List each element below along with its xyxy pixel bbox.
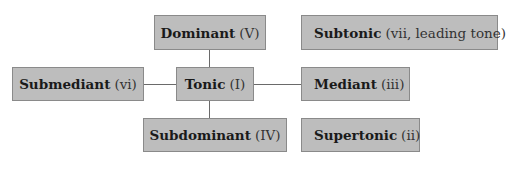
node-subdominant: Subdominant (IV) <box>143 118 287 152</box>
node-mediant: Mediant (iii) <box>301 67 410 101</box>
node-mediant-name: Mediant <box>314 76 377 92</box>
node-supertonic-name: Supertonic <box>314 127 397 143</box>
node-subdominant-name: Subdominant <box>149 127 250 143</box>
edge-tonic-mediant <box>254 84 301 85</box>
node-mediant-numeral: (iii) <box>381 76 405 92</box>
edge-tonic-subdominant <box>209 101 210 118</box>
node-tonic: Tonic (I) <box>176 67 254 101</box>
node-submediant: Submediant (vi) <box>12 67 144 101</box>
node-submediant-numeral: (vi) <box>114 76 136 92</box>
node-supertonic: Supertonic (ii) <box>301 118 420 152</box>
node-subdominant-numeral: (IV) <box>255 127 281 143</box>
node-dominant-name: Dominant <box>160 25 235 41</box>
node-submediant-name: Submediant <box>19 76 110 92</box>
node-dominant-numeral: (V) <box>239 25 259 41</box>
node-supertonic-numeral: (ii) <box>401 127 420 143</box>
edge-tonic-submediant <box>144 84 176 85</box>
node-tonic-numeral: (I) <box>229 76 245 92</box>
edge-tonic-dominant <box>209 50 210 67</box>
node-subtonic-numeral: (vii, leading tone) <box>385 25 506 41</box>
node-dominant: Dominant (V) <box>154 15 266 50</box>
node-tonic-name: Tonic <box>185 76 226 92</box>
node-subtonic-name: Subtonic <box>314 25 381 41</box>
node-subtonic: Subtonic (vii, leading tone) <box>301 15 498 50</box>
